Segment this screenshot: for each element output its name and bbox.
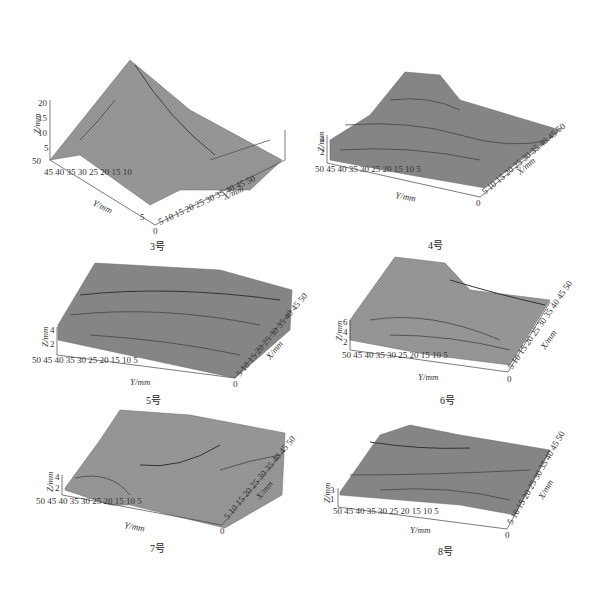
svg-text:Y/mm: Y/mm (395, 190, 417, 203)
svg-text:Z/mm: Z/mm (316, 131, 326, 152)
svg-text:5: 5 (44, 143, 49, 153)
surface-plot-3: 20 15 10 5 Z/mm 50 45 40 35 30 25 20 15 … (20, 30, 310, 260)
surface-6-svg: 6 4 2 Z/mm 50 45 40 35 30 25 20 15 10 5 … (300, 255, 590, 405)
svg-text:Z/mm: Z/mm (32, 113, 42, 134)
svg-text:2: 2 (55, 483, 60, 493)
svg-text:Z/mm: Z/mm (322, 482, 332, 503)
svg-text:0: 0 (507, 374, 512, 384)
surface-plot-8: 3 1 Z/mm 50 45 40 35 30 25 20 15 10 5 0 … (300, 400, 590, 570)
surface-4-svg: 4 2 Z/mm 50 45 40 35 30 25 20 15 10 5 0 … (310, 60, 590, 260)
svg-text:0: 0 (220, 526, 225, 536)
svg-text:Z/mm: Z/mm (45, 471, 55, 492)
svg-text:0: 0 (153, 226, 158, 236)
svg-text:50: 50 (32, 156, 42, 166)
svg-text:Y/mm: Y/mm (130, 377, 151, 387)
svg-text:Y/mm: Y/mm (91, 198, 114, 216)
svg-text:4: 4 (50, 325, 55, 335)
surface-plot-4: 4 2 Z/mm 50 45 40 35 30 25 20 15 10 5 0 … (310, 60, 590, 260)
svg-text:0: 0 (476, 198, 481, 208)
svg-text:4: 4 (55, 472, 60, 482)
svg-text:50 45 40 35 30 25 20 15 10 5: 50 45 40 35 30 25 20 15 10 5 (315, 164, 421, 174)
svg-text:Z/mm: Z/mm (40, 326, 50, 347)
svg-text:Y/mm: Y/mm (418, 372, 439, 382)
surface-3-svg: 20 15 10 5 Z/mm 50 45 40 35 30 25 20 15 … (20, 30, 310, 260)
surface-7-svg: 4 2 Z/mm 50 45 40 35 30 25 20 15 10 5 0 … (20, 400, 310, 565)
panel-caption-8: 8号 (438, 543, 453, 558)
surface-plot-7: 4 2 Z/mm 50 45 40 35 30 25 20 15 10 5 0 … (20, 400, 310, 565)
svg-text:50 45 40 35 30 25 20 15 10 5: 50 45 40 35 30 25 20 15 10 5 (32, 355, 138, 365)
svg-text:50 45 40 35 30 25 20 15 10 5: 50 45 40 35 30 25 20 15 10 5 (342, 350, 448, 360)
svg-text:Y/mm: Y/mm (410, 525, 431, 535)
svg-text:5: 5 (140, 212, 145, 222)
svg-text:45 40 35 30 25 20 15 10: 45 40 35 30 25 20 15 10 (44, 167, 132, 177)
surface-plot-6: 6 4 2 Z/mm 50 45 40 35 30 25 20 15 10 5 … (300, 255, 590, 405)
svg-text:50 45 40 35 30 25 20 15 10 5: 50 45 40 35 30 25 20 15 10 5 (36, 496, 142, 506)
panel-caption-3: 3号 (150, 238, 165, 253)
svg-text:0: 0 (233, 379, 238, 389)
svg-text:50 45 40 35 30 25 20 15 10 5: 50 45 40 35 30 25 20 15 10 5 (333, 506, 439, 516)
surface-5-svg: 4 2 Z/mm 50 45 40 35 30 25 20 15 10 5 0 … (20, 255, 310, 390)
svg-text:2: 2 (50, 339, 55, 349)
panel-caption-7: 7号 (150, 540, 165, 555)
panel-caption-4: 4号 (428, 237, 443, 252)
svg-text:20: 20 (38, 98, 48, 108)
svg-text:0: 0 (505, 530, 510, 540)
svg-text:Z/mm: Z/mm (334, 320, 344, 341)
svg-text:Y/mm: Y/mm (124, 520, 146, 533)
surface-plot-5: 4 2 Z/mm 50 45 40 35 30 25 20 15 10 5 0 … (20, 255, 310, 390)
